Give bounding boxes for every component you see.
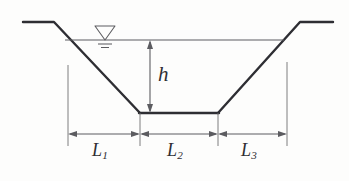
L3-arrowhead-left [218,131,227,137]
dimension-L2 [140,131,218,137]
dimension-L3 [218,131,287,137]
L3-arrowhead-right [278,131,287,137]
channel-cross-section-figure: h L1 L2 L3 [0,0,349,181]
dimension-L1 [68,131,140,137]
depth-arrowhead-down [147,104,153,113]
depth-label-h: h [158,64,169,85]
width-dimension-group [68,131,287,137]
depth-arrowhead-up [147,40,153,49]
L2-subscript: 2 [177,149,183,161]
L1-arrowhead-left [68,131,77,137]
left-bank-profile [23,22,140,113]
L1-arrowhead-right [131,131,140,137]
L3-subscript: 3 [251,149,257,161]
L2-arrowhead-right [209,131,218,137]
depth-dimension-arrow [147,40,153,113]
width-label-L1: L1 [92,141,108,161]
ground-profile-group [23,22,333,113]
water-level-triangle-icon [95,26,115,48]
width-label-L2: L2 [167,141,183,161]
L2-arrowhead-left [140,131,149,137]
right-bank-profile [218,22,333,113]
width-label-L3: L3 [241,141,257,161]
L1-subscript: 1 [102,149,108,161]
